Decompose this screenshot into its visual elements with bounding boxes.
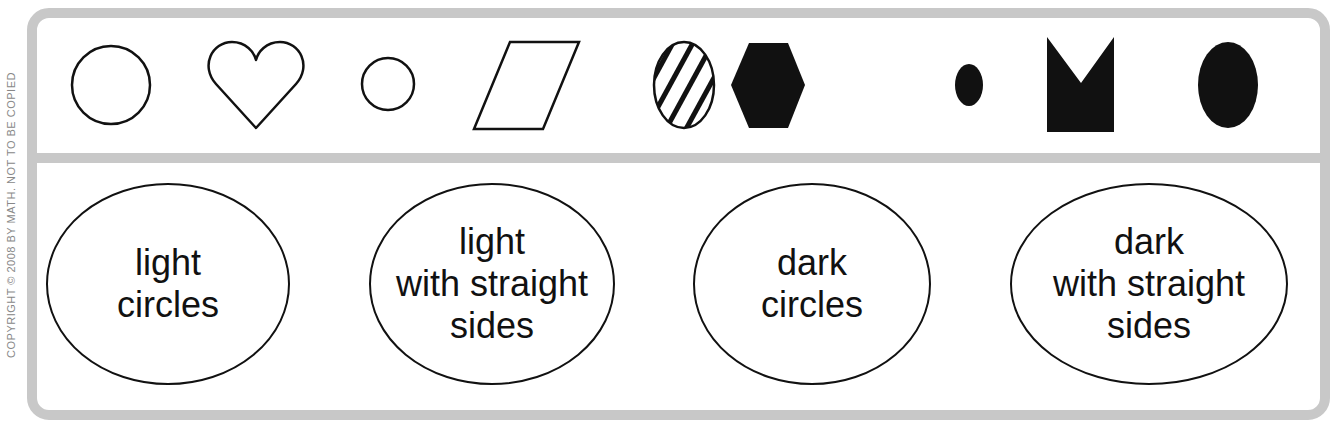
group-label-dark-circles: dark circles [694, 190, 930, 378]
group-label-light-circles: light circles [48, 190, 288, 378]
label-line: dark [694, 242, 930, 284]
small-light-circle-icon [362, 58, 414, 110]
light-heart-icon [209, 42, 304, 128]
large-light-circle-icon [72, 46, 150, 124]
label-line: dark [1011, 221, 1287, 263]
label-line: light [370, 221, 614, 263]
group-label-dark-straight: dark with straight sides [1011, 190, 1287, 378]
label-line: sides [370, 305, 614, 347]
label-line: light [48, 242, 288, 284]
dark-notched-square-icon [1047, 37, 1114, 132]
label-line: sides [1011, 305, 1287, 347]
label-line: circles [48, 284, 288, 326]
light-parallelogram-icon [474, 42, 579, 129]
label-line: with straight [370, 263, 614, 305]
label-line: with straight [1011, 263, 1287, 305]
striped-circle-icon [620, 30, 740, 140]
large-dark-circle-icon [1198, 42, 1258, 128]
group-label-light-straight: light with straight sides [370, 190, 614, 378]
label-line: circles [694, 284, 930, 326]
small-dark-circle-icon [955, 64, 983, 106]
dark-hexagon-icon [731, 43, 805, 128]
